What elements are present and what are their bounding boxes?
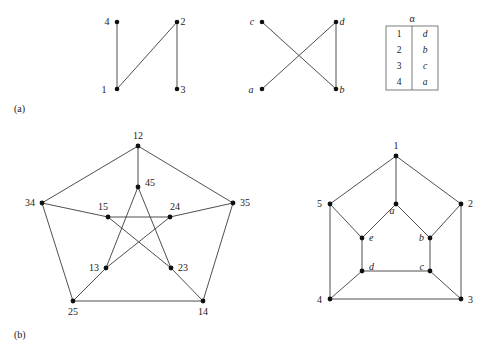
petersen-graph-edge-3-c <box>430 271 461 299</box>
graph-letters-label-c: c <box>250 16 255 27</box>
kneser-graph-label-12: 12 <box>133 130 143 141</box>
petersen-graph-label-b: b <box>419 232 424 243</box>
kneser-graph-node-25 <box>71 299 76 304</box>
alpha-table-group: α1d2b3c4a <box>386 13 438 90</box>
kneser-graph-label-34: 34 <box>25 197 35 208</box>
petersen-graph-edge-2-b <box>430 204 461 238</box>
graph-letters-node-d <box>334 20 339 25</box>
graph-letters-edges <box>262 22 336 89</box>
kneser-graph-label-45: 45 <box>145 177 155 188</box>
graph-numbers-nodes: 4213 <box>102 16 186 95</box>
alpha-table-cell-domain-1: 2 <box>397 45 402 55</box>
petersen-graph-label-d: d <box>369 261 375 272</box>
graph-numbers-node-1 <box>115 87 120 92</box>
graph-numbers-node-4 <box>115 20 120 25</box>
kneser-graph-edge-15-23 <box>108 217 171 268</box>
petersen-graph-label-c: c <box>420 261 425 272</box>
kneser-graph-edge-35-14 <box>203 203 233 301</box>
petersen-graph-node-d <box>360 269 365 274</box>
petersen-graph-edge-5-e <box>330 204 362 238</box>
alpha-table-header: α <box>409 13 415 24</box>
graph-numbers-node-3 <box>175 87 180 92</box>
petersen-graph-edge-4-d <box>330 271 362 299</box>
petersen-graph-label-4: 4 <box>317 294 322 305</box>
graph-numbers-edge-1-2 <box>117 22 177 89</box>
alpha-table-cell-domain-2: 3 <box>397 61 402 71</box>
kneser-graph-label-14: 14 <box>198 306 208 317</box>
kneser-graph-label-35: 35 <box>240 197 250 208</box>
kneser-graph-label-13: 13 <box>89 262 99 273</box>
kneser-graph-nodes: 12343525144515241323 <box>25 130 250 317</box>
alpha-table-cell-domain-3: 4 <box>397 77 402 87</box>
kneser-graph-edge-34-25 <box>42 203 73 301</box>
kneser-graph-edges <box>42 146 233 301</box>
petersen-graph-label-3: 3 <box>468 294 473 305</box>
kneser-graph-node-14 <box>201 299 206 304</box>
petersen-graph-node-2 <box>459 202 464 207</box>
kneser-graph-edge-12-35 <box>138 146 233 203</box>
alpha-table-cell-image-2: c <box>423 61 428 71</box>
graph-letters-nodes: cdab <box>249 16 346 95</box>
kneser-graph-node-12 <box>136 144 141 149</box>
graph-numbers-label-1: 1 <box>102 84 107 95</box>
alpha-table-cell-image-3: a <box>423 77 428 87</box>
alpha-table-cell-image-1: b <box>423 45 428 55</box>
kneser-graph-label-24: 24 <box>170 201 180 212</box>
petersen-graph-node-5 <box>328 202 333 207</box>
graph-numbers-node-2 <box>175 20 180 25</box>
petersen-graph-label-e: e <box>369 232 374 243</box>
petersen-graph-label-1: 1 <box>394 140 399 151</box>
kneser-graph-edge-12-34 <box>42 146 138 203</box>
petersen-graph-edge-1-2 <box>396 156 461 204</box>
kneser-graph-edge-45-13 <box>106 187 138 268</box>
petersen-graph-node-c <box>428 269 433 274</box>
petersen-graph-label-2: 2 <box>468 198 473 209</box>
kneser-graph-node-15 <box>106 215 111 220</box>
kneser-graph-node-35 <box>231 201 236 206</box>
graph-numbers-label-3: 3 <box>181 84 186 95</box>
kneser-graph-label-25: 25 <box>68 306 78 317</box>
petersen-graph-label-a: a <box>390 205 395 216</box>
graph-letters-label-d: d <box>340 16 346 27</box>
petersen-graph-nodes: 15243aebdc <box>317 140 473 305</box>
kneser-graph-edge-45-23 <box>138 187 171 268</box>
graph-letters-node-b <box>334 87 339 92</box>
kneser-graph-node-45 <box>136 185 141 190</box>
petersen-graph-node-4 <box>328 297 333 302</box>
kneser-graph-node-34 <box>40 201 45 206</box>
kneser-graph-node-13 <box>104 266 109 271</box>
petersen-graph-edges <box>330 156 461 299</box>
kneser-graph-node-23 <box>169 266 174 271</box>
alpha-table-cell-domain-0: 1 <box>397 29 402 39</box>
kneser-graph-label-15: 15 <box>98 201 108 212</box>
petersen-graph-node-e <box>360 236 365 241</box>
graph-letters-node-a <box>260 87 265 92</box>
graph-letters-node-c <box>260 20 265 25</box>
panel-label-b: (b) <box>14 329 26 341</box>
petersen-graph-edge-1-5 <box>330 156 396 204</box>
petersen-graph-node-1 <box>394 154 399 159</box>
graph-letters-label-b: b <box>340 84 345 95</box>
panel-label-a: (a) <box>14 103 25 115</box>
petersen-graph-label-5: 5 <box>317 198 322 209</box>
graph-numbers-label-4: 4 <box>105 16 110 27</box>
figure-svg: 4213 cdab α1d2b3c4a 12343525144515241323… <box>0 0 493 350</box>
alpha-table-cell-image-0: d <box>423 29 428 39</box>
petersen-graph-node-3 <box>459 297 464 302</box>
graph-numbers-label-2: 2 <box>181 16 186 27</box>
petersen-graph-node-b <box>428 236 433 241</box>
graph-numbers-edges <box>117 22 177 89</box>
graph-letters-label-a: a <box>249 84 254 95</box>
kneser-graph-node-24 <box>168 215 173 220</box>
kneser-graph-label-23: 23 <box>178 262 188 273</box>
petersen-graph-edge-a-b <box>396 204 430 238</box>
figure-container: 4213 cdab α1d2b3c4a 12343525144515241323… <box>0 0 493 350</box>
